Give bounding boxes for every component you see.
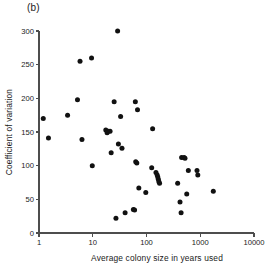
data-point <box>119 146 124 151</box>
data-point <box>112 99 117 104</box>
data-point <box>116 142 121 147</box>
data-point <box>184 191 189 196</box>
data-points-layer <box>41 29 216 221</box>
data-point <box>150 126 155 131</box>
data-point <box>186 168 191 173</box>
x-axis-tick-label: 100 <box>140 238 153 247</box>
data-point <box>211 189 216 194</box>
x-axis-tick-label: 1000 <box>192 238 209 247</box>
y-axis-tick-label: 50 <box>26 195 34 204</box>
data-point <box>133 99 138 104</box>
data-point <box>175 181 180 186</box>
data-point <box>123 210 128 215</box>
y-axis-tick-label: 0 <box>30 229 34 238</box>
scatter-plot-figure: (b) 050100150200250300 110100100010000 A… <box>0 0 276 267</box>
data-point <box>79 137 84 142</box>
y-axis-tick-label: 100 <box>21 161 34 170</box>
x-axis: 110100100010000 <box>37 233 265 247</box>
data-point <box>134 160 139 165</box>
data-point <box>179 210 184 215</box>
data-point <box>115 29 120 34</box>
data-point <box>149 165 154 170</box>
x-axis-tick-label: 1 <box>37 238 41 247</box>
x-axis-tick-label: 10 <box>89 238 97 247</box>
data-point <box>108 129 113 134</box>
plot-canvas: 050100150200250300 110100100010000 Avera… <box>0 0 276 267</box>
data-point <box>136 185 141 190</box>
y-axis-tick-label: 200 <box>21 94 34 103</box>
data-point <box>195 168 200 173</box>
data-point <box>65 113 70 118</box>
y-axis-title: Coefficient of variation <box>4 89 14 176</box>
data-point <box>178 200 183 205</box>
data-point <box>143 190 148 195</box>
data-point <box>46 136 51 141</box>
x-axis-title: Average colony size in years used <box>91 253 223 263</box>
data-point <box>78 59 83 64</box>
y-axis-tick-label: 150 <box>21 128 34 137</box>
data-point <box>90 163 95 168</box>
data-point <box>109 150 114 155</box>
y-axis: 050100150200250300 <box>21 27 39 238</box>
y-axis-tick-label: 250 <box>21 60 34 69</box>
y-axis-tick-label: 300 <box>21 27 34 36</box>
data-point <box>135 107 140 112</box>
data-point <box>113 216 118 221</box>
data-point <box>118 114 123 119</box>
data-point <box>157 181 162 186</box>
data-point <box>182 156 187 161</box>
data-point <box>41 116 46 121</box>
x-axis-tick-label: 10000 <box>243 238 264 247</box>
data-point <box>89 55 94 60</box>
data-point <box>195 173 200 178</box>
data-point <box>75 97 80 102</box>
data-point <box>132 208 137 213</box>
